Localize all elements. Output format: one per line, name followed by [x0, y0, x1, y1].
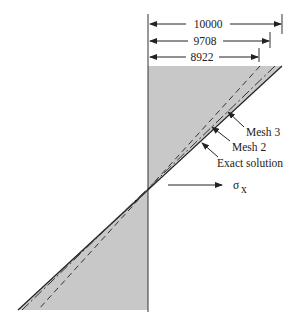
mesh3-label: Mesh 3	[246, 126, 280, 138]
sigma-subscript: x	[241, 183, 247, 195]
exact-solution-label: Exact solution	[217, 157, 283, 169]
sigma-symbol: σ	[233, 179, 240, 191]
diagram-canvas: 10000 9708 8922 Mesh 3 Mesh 2 Exact solu…	[0, 0, 295, 324]
mesh2-label: Mesh 2	[232, 141, 266, 153]
dimension-8922-label: 8922	[191, 51, 214, 63]
stress-distribution-diagram: 10000 9708 8922 Mesh 3 Mesh 2 Exact solu…	[0, 0, 295, 324]
dimension-9708-label: 9708	[194, 35, 217, 47]
dimension-10000-label: 10000	[194, 18, 223, 30]
